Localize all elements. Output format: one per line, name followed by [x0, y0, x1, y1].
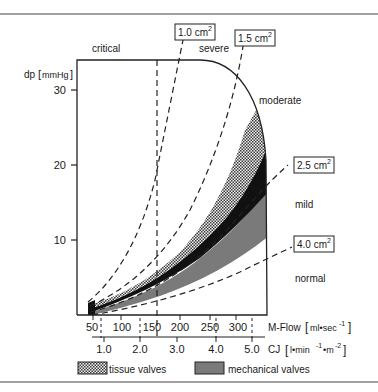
cj-tick-3: 3.0: [169, 343, 184, 355]
label-1-0-cm2: 1.0 cm 2: [175, 24, 215, 40]
svg-text:-1: -1: [316, 342, 322, 349]
region-moderate: moderate: [259, 95, 302, 106]
x-tick-100: 100: [113, 321, 131, 333]
svg-text:1.5 cm: 1.5 cm: [238, 33, 268, 44]
cj-tick-5: 5.0: [244, 343, 259, 355]
y-tick-20: 20: [54, 159, 66, 171]
svg-text:[: [: [305, 320, 309, 334]
chart: 30 20 10 dp [ mmHg ] 50 100 150 200 250 …: [0, 0, 378, 392]
x-tick-250: 250: [201, 321, 219, 333]
region-severe: severe: [199, 43, 229, 54]
y-axis-label: dp: [24, 69, 36, 80]
x-axis-label: M-Flow: [268, 322, 302, 333]
svg-text:l•min: l•min: [290, 345, 310, 355]
legend-label-tissue: tissue valves: [109, 364, 166, 375]
svg-text:[: [: [38, 68, 41, 80]
svg-text:1.0 cm: 1.0 cm: [178, 27, 208, 38]
svg-text:-2: -2: [335, 342, 341, 349]
legend-swatch-mechanical: [195, 362, 224, 374]
svg-text:]: ]: [348, 320, 351, 334]
region-mild: mild: [295, 199, 313, 210]
region-normal: normal: [295, 273, 326, 284]
legend: tissue valves mechanical valves: [78, 362, 310, 375]
svg-text:4.0 cm: 4.0 cm: [297, 239, 327, 250]
svg-text:2: 2: [327, 237, 331, 244]
x-tick-300: 300: [229, 321, 247, 333]
x-tick-50: 50: [86, 321, 98, 333]
x-axis-unit: ml•sec: [310, 323, 337, 333]
label-4-0-cm2: 4.0 cm 2: [294, 236, 334, 252]
cj-tick-2: 2.0: [132, 343, 147, 355]
x-axis-cj: 1.0 2.0 3.0 4.0 5.0 CJ [ l•min -1 •m -2 …: [92, 337, 346, 357]
region-critical: critical: [92, 43, 120, 54]
y-axis: 30 20 10 dp [ mmHg ]: [24, 68, 77, 246]
y-tick-10: 10: [54, 234, 66, 246]
y-tick-30: 30: [54, 84, 66, 96]
cj-axis-label: CJ: [268, 344, 280, 355]
svg-text:2.5 cm: 2.5 cm: [297, 160, 327, 171]
svg-text:2: 2: [327, 158, 331, 165]
svg-text:2: 2: [268, 31, 272, 38]
svg-text:-1: -1: [339, 320, 345, 327]
label-1-5-cm2: 1.5 cm 2: [235, 30, 275, 46]
plot-area: [88, 100, 270, 315]
svg-text:]: ]: [343, 343, 346, 357]
svg-text:2: 2: [208, 25, 212, 32]
cj-tick-4: 4.0: [208, 343, 223, 355]
legend-label-mechanical: mechanical valves: [228, 364, 310, 375]
cj-tick-1: 1.0: [96, 343, 111, 355]
x-tick-200: 200: [171, 321, 189, 333]
svg-text:•m: •m: [323, 345, 334, 355]
x-axis-mflow: 50 100 150 200 250 300 M-Flow [ ml•sec -…: [86, 315, 351, 338]
x-tick-150: 150: [143, 321, 161, 333]
svg-text:[: [: [285, 343, 289, 357]
label-2-5-cm2: 2.5 cm 2: [294, 157, 334, 173]
legend-swatch-tissue: [78, 362, 107, 374]
y-axis-unit: mmHg: [42, 70, 69, 80]
svg-text:]: ]: [70, 68, 73, 80]
